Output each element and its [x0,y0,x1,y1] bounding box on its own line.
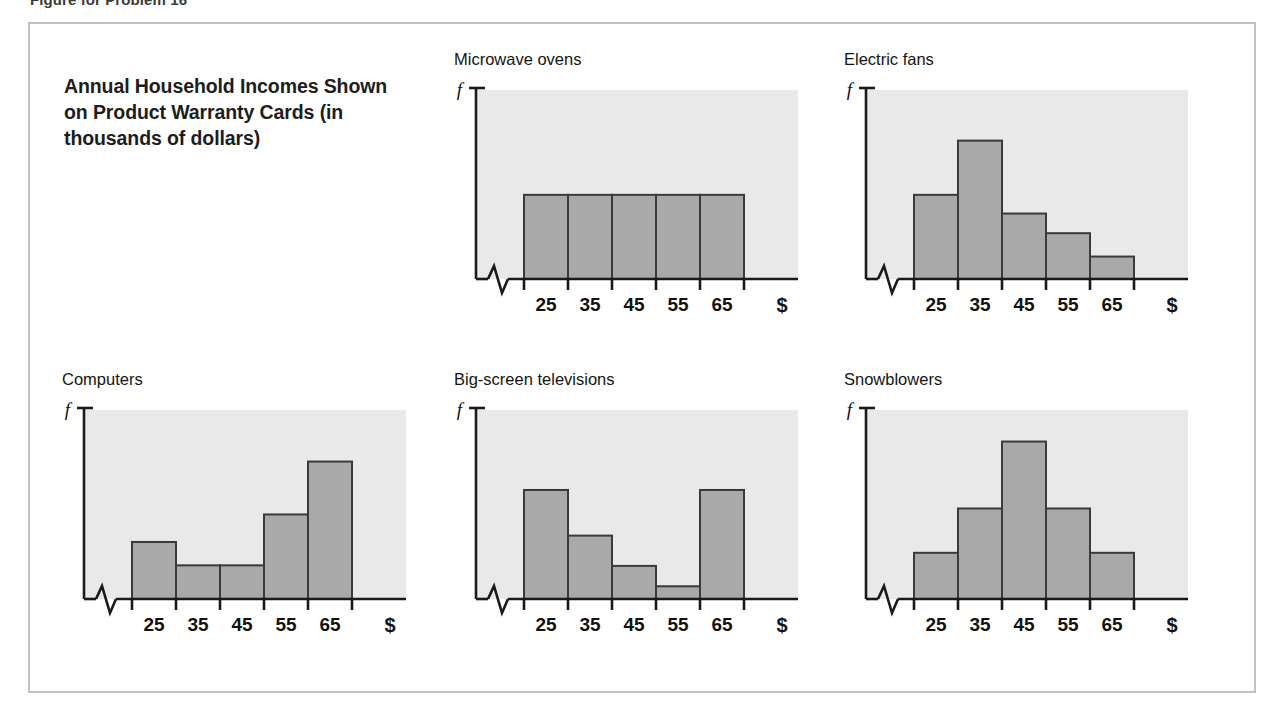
histogram-bar [914,195,958,279]
chart-title-microwave-ovens: Microwave ovens [454,50,581,69]
svg-text:55: 55 [667,614,689,635]
svg-text:45: 45 [231,614,253,635]
svg-text:f: f [457,82,465,100]
histogram-bar [568,195,612,279]
chart-cell-snowblowers: Snowblowers 2535455565f$ [820,364,1210,664]
svg-text:65: 65 [1101,294,1123,315]
svg-text:$: $ [776,294,787,316]
histogram-bar [700,195,744,279]
histogram-bar [220,565,264,599]
histogram-bar [656,586,700,599]
histogram-bar [1090,257,1134,279]
histogram-bar [1046,508,1090,599]
chart-title-big-screen-televisions: Big-screen televisions [454,370,615,389]
histogram-computers: 2535455565f$ [58,402,418,652]
svg-text:25: 25 [535,614,557,635]
svg-text:65: 65 [711,614,733,635]
figure-caption: Figure for Problem 16 [30,0,187,8]
histogram-big-screen-televisions: 2535455565f$ [450,402,810,652]
chart-title-computers: Computers [62,370,143,389]
histogram-microwave-ovens: 2535455565f$ [450,82,810,332]
svg-text:55: 55 [275,614,297,635]
chart-cell-microwave-ovens: Microwave ovens 2535455565f$ [430,44,820,344]
chart-title-electric-fans: Electric fans [844,50,934,69]
histogram-bar [568,536,612,599]
svg-text:65: 65 [711,294,733,315]
svg-text:25: 25 [925,614,947,635]
svg-text:55: 55 [1057,294,1079,315]
headline-cell: Annual Household Incomes Shown on Produc… [38,44,428,344]
chart-cell-computers: Computers 2535455565f$ [38,364,428,664]
svg-text:55: 55 [667,294,689,315]
svg-text:45: 45 [1013,614,1035,635]
histogram-bar [132,542,176,599]
histogram-snowblowers: 2535455565f$ [840,402,1200,652]
svg-text:35: 35 [187,614,209,635]
svg-text:25: 25 [143,614,165,635]
histogram-grid: Annual Household Incomes Shown on Produc… [30,24,1254,691]
histogram-bar [958,141,1002,279]
histogram-electric-fans: 2535455565f$ [840,82,1200,332]
svg-text:$: $ [1166,294,1177,316]
svg-text:45: 45 [623,294,645,315]
histogram-bar [524,490,568,599]
svg-text:55: 55 [1057,614,1079,635]
figure-frame: Annual Household Incomes Shown on Produc… [28,22,1256,693]
histogram-bar [700,490,744,599]
histogram-bar [264,514,308,599]
svg-text:f: f [847,82,855,100]
svg-text:25: 25 [535,294,557,315]
svg-text:$: $ [776,614,787,636]
svg-text:f: f [65,402,73,420]
svg-text:35: 35 [969,294,991,315]
svg-text:$: $ [1166,614,1177,636]
svg-text:65: 65 [319,614,341,635]
histogram-bar [612,566,656,599]
histogram-bar [1002,214,1046,279]
figure-headline: Annual Household Incomes Shown on Produc… [64,74,394,152]
chart-cell-big-screen-televisions: Big-screen televisions 2535455565f$ [430,364,820,664]
svg-text:35: 35 [579,614,601,635]
svg-text:$: $ [384,614,395,636]
histogram-bar [958,508,1002,599]
svg-text:35: 35 [579,294,601,315]
histogram-bar [176,565,220,599]
histogram-bar [1002,442,1046,599]
svg-text:45: 45 [623,614,645,635]
histogram-bar [914,553,958,599]
histogram-bar [1090,553,1134,599]
svg-text:35: 35 [969,614,991,635]
histogram-bar [308,462,352,599]
svg-text:f: f [847,402,855,420]
svg-text:25: 25 [925,294,947,315]
chart-cell-electric-fans: Electric fans 2535455565f$ [820,44,1210,344]
histogram-bar [612,195,656,279]
svg-text:45: 45 [1013,294,1035,315]
histogram-bar [524,195,568,279]
histogram-bar [1046,233,1090,279]
svg-text:f: f [457,402,465,420]
chart-title-snowblowers: Snowblowers [844,370,942,389]
svg-text:65: 65 [1101,614,1123,635]
histogram-bar [656,195,700,279]
